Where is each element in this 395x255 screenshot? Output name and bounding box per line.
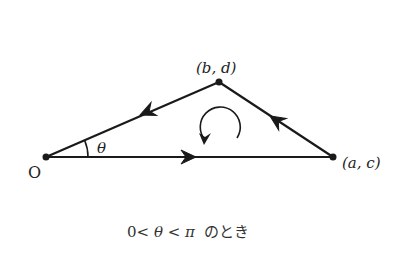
theta-label: θ <box>97 139 106 157</box>
vertex-ac <box>330 154 337 161</box>
caption: 0< θ < π のとき <box>127 223 249 241</box>
triangle-diagram: O θ (b, d) (a, c) 0< θ < π のとき <box>0 0 395 255</box>
arrow-up-left-icon <box>266 110 286 130</box>
arrow-down-left-icon <box>137 103 156 122</box>
caption-theta: θ <box>154 223 163 241</box>
triangle-edges <box>46 82 333 157</box>
caption-mid: < <box>168 223 181 241</box>
caption-pi: π <box>184 223 196 241</box>
angle-arc <box>85 140 88 157</box>
vertex-origin <box>43 154 50 161</box>
edge-bd-to-origin <box>46 82 219 157</box>
caption-suffix: のとき <box>204 223 249 241</box>
point-bd-label: (b, d) <box>196 59 237 77</box>
vertex-bd <box>216 79 223 86</box>
rotation-arrow-icon <box>199 107 240 145</box>
point-ac-label: (a, c) <box>342 154 381 172</box>
origin-label: O <box>28 163 41 182</box>
caption-prefix: 0< <box>127 223 149 241</box>
